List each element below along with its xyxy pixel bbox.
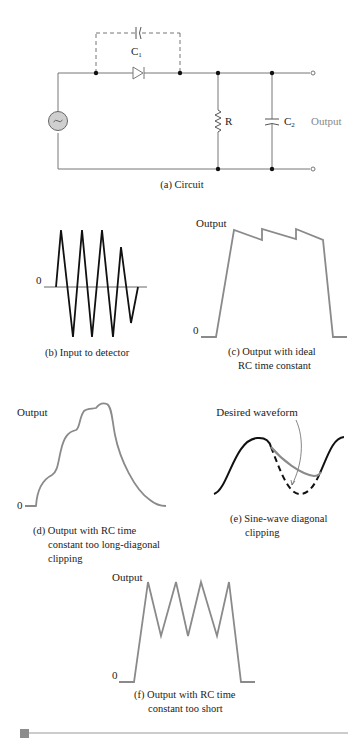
caption-f-line1: (f) Output with RC time	[134, 689, 236, 701]
output-terminal-top	[311, 71, 315, 75]
zero-label: 0	[17, 499, 23, 511]
rule-marker-square	[20, 729, 29, 738]
zero-label: 0	[193, 324, 199, 336]
panel-d-too-long: Output 0 (d) Output with RC time constan…	[17, 403, 166, 564]
am-input-waveform	[56, 230, 138, 337]
caption-e-line2: clipping	[245, 527, 280, 538]
sine-waveform	[214, 438, 271, 494]
output-terminal-bottom	[311, 167, 315, 171]
node-dot	[178, 71, 182, 75]
output-axis-label: Output	[196, 217, 227, 229]
node-dot	[270, 167, 274, 171]
desired-waveform-annotation: Desired waveform	[216, 406, 298, 418]
caption-c-line1: (c) Output with ideal	[228, 346, 316, 358]
clipped-output-waveform	[271, 447, 321, 476]
output-axis-label: Output	[17, 406, 48, 418]
ideal-output-waveform	[201, 229, 347, 337]
caption-c-line2: RC time constant	[238, 360, 311, 371]
circuit-nodes	[94, 71, 274, 171]
caption-b: (b) Input to detector	[45, 347, 130, 359]
bottom-rule	[20, 729, 348, 738]
resistor-icon	[215, 110, 221, 132]
sine-waveform-continuation	[320, 437, 344, 473]
node-dot	[94, 71, 98, 75]
too-short-output-waveform	[119, 582, 255, 682]
output-label: Output	[311, 115, 342, 127]
annotation-leader-line	[292, 420, 301, 485]
ac-source-icon	[49, 112, 68, 131]
c1-label: C1	[131, 45, 142, 59]
panel-e-sine-clipping: Desired waveform (e) Sine-wave diagonal …	[214, 406, 344, 538]
panel-c-ideal: Output 0 (c) Output with ideal RC time c…	[193, 217, 347, 371]
caption-f-line2: constant too short	[148, 703, 223, 714]
node-dot	[216, 71, 220, 75]
caption-d-line1: (d) Output with RC time	[33, 525, 137, 537]
c2-label: C2	[284, 115, 295, 129]
panel-f-too-short: Output 0 (f) Output with RC time constan…	[112, 571, 255, 714]
diode-icon	[133, 67, 144, 79]
node-dot	[216, 167, 220, 171]
zero-label: 0	[112, 669, 118, 681]
zero-label: 0	[36, 274, 42, 286]
output-axis-label: Output	[112, 571, 143, 583]
r-label: R	[225, 115, 233, 127]
caption-d-line2: constant too long-diagonal	[48, 539, 160, 550]
c1-capacitor-icon	[136, 27, 141, 39]
panel-a-circuit: C1 R C2 Output	[49, 27, 342, 191]
caption-d-line3: clipping	[48, 553, 83, 564]
too-long-output-waveform	[25, 403, 166, 506]
caption-e-line1: (e) Sine-wave diagonal	[230, 513, 327, 525]
figure-canvas: C1 R C2 Output	[0, 0, 364, 745]
caption-a: (a) Circuit	[160, 179, 204, 191]
node-dot	[270, 71, 274, 75]
panel-b-input: 0 (b) Input to detector	[36, 230, 147, 359]
circuit-wires	[58, 73, 310, 169]
